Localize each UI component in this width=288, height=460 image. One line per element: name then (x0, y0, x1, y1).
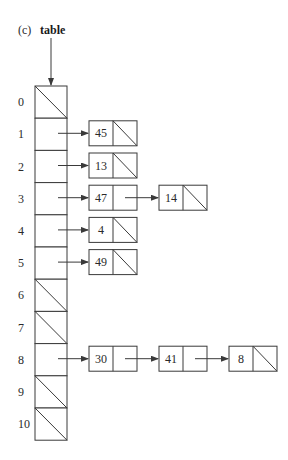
node-value: 49 (95, 255, 107, 269)
bucket-chains: 4513471444930418 (58, 121, 277, 371)
panel-label: (c) (18, 23, 31, 37)
table-cell (35, 311, 67, 343)
table-cell (35, 150, 67, 182)
table-cell (35, 279, 67, 311)
index-label: 6 (18, 288, 24, 302)
node-value: 41 (165, 352, 177, 366)
hash-table-diagram: (c) table 012345678910 4513471444930418 (0, 0, 288, 460)
node-value: 45 (95, 126, 107, 140)
hash-table-array (35, 86, 67, 440)
node-value: 47 (95, 191, 107, 205)
table-cell (35, 215, 67, 247)
index-label: 10 (18, 417, 30, 431)
table-cell (35, 344, 67, 376)
table-cell (35, 247, 67, 279)
table-pointer-label: table (40, 23, 66, 37)
index-label: 4 (18, 224, 24, 238)
index-label: 1 (18, 127, 24, 141)
table-cell (35, 408, 67, 440)
index-label: 8 (18, 353, 24, 367)
table-cell (35, 376, 67, 408)
list-node: 45 (89, 121, 137, 146)
index-label: 5 (18, 256, 24, 270)
table-cell (35, 118, 67, 150)
index-label: 2 (18, 160, 24, 174)
node-value: 4 (98, 223, 104, 237)
table-cell (35, 86, 67, 118)
index-label: 3 (18, 192, 24, 206)
list-node: 14 (159, 185, 207, 210)
list-node: 8 (229, 346, 277, 371)
node-value: 13 (95, 159, 107, 173)
index-label: 7 (18, 321, 24, 335)
list-node: 49 (89, 250, 137, 275)
list-node: 4 (89, 217, 137, 242)
index-label: 0 (18, 95, 24, 109)
node-value: 8 (238, 352, 244, 366)
list-node: 13 (89, 153, 137, 178)
node-value: 30 (95, 352, 107, 366)
index-label: 9 (18, 385, 24, 399)
node-value: 14 (165, 191, 177, 205)
table-cell (35, 183, 67, 215)
index-labels: 012345678910 (18, 95, 30, 431)
